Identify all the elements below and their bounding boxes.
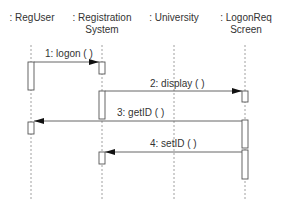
activation-logonreq-3 — [242, 150, 248, 179]
message-label-setid: 4: setID ( ) — [150, 138, 197, 150]
activation-logonreq-2 — [242, 120, 248, 148]
message-label-getid: 3: getID ( ) — [117, 107, 164, 119]
message-label-logon: 1: logon ( ) — [45, 48, 93, 60]
activation-regsys-3 — [99, 152, 105, 164]
activation-regsys-1 — [99, 62, 105, 74]
activation-logonreq-1 — [242, 91, 248, 102]
activation-reguser-1 — [28, 62, 34, 90]
activation-regsys-2 — [99, 91, 105, 119]
sequence-diagram-canvas — [0, 0, 281, 211]
activation-reguser-2 — [28, 122, 34, 134]
message-label-display: 2: display ( ) — [150, 78, 204, 90]
